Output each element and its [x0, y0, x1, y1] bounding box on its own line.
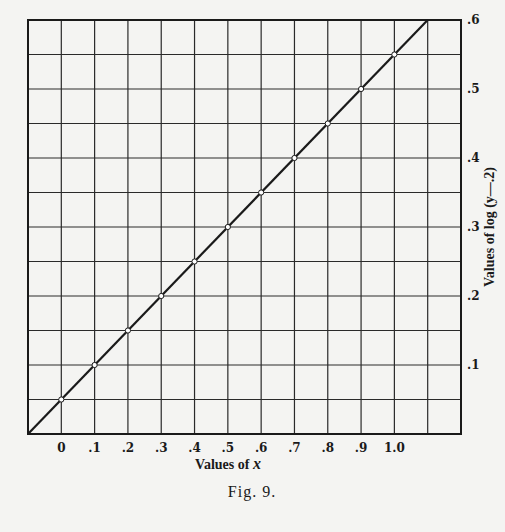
y-tick-label: .6 [467, 13, 480, 27]
y-tick-label: .4 [467, 151, 480, 165]
data-point [59, 397, 64, 402]
data-point [358, 86, 363, 91]
y-axis-label: Values of log (y—.2) [482, 167, 498, 287]
data-point [325, 121, 330, 126]
grid [28, 20, 461, 434]
y-tick-label: .2 [467, 289, 480, 303]
y-tick-label: .5 [467, 82, 480, 96]
y-tick-labels: .1.2.3.4.5.6 [467, 13, 480, 372]
x-axis-label-var: x [252, 455, 261, 472]
data-point [192, 259, 197, 264]
y-tick-label: .3 [467, 220, 480, 234]
x-tick-label: .4 [188, 441, 201, 455]
x-tick-label: .6 [255, 441, 268, 455]
data-point [92, 362, 97, 367]
x-tick-label: .5 [222, 441, 235, 455]
x-tick-label: .1 [88, 441, 101, 455]
data-point [259, 190, 264, 195]
chart: 0.1.2.3.4.5.6.7.8.91.0 .1.2.3.4.5.6 Valu… [0, 0, 505, 532]
x-tick-label: .9 [355, 441, 368, 455]
data-point [392, 52, 397, 57]
data-point [125, 328, 130, 333]
data-point [159, 293, 164, 298]
x-axis-label: Values of x [195, 455, 261, 472]
data-point [292, 155, 297, 160]
x-tick-label: .2 [122, 441, 135, 455]
x-axis-label-prefix: Values of [195, 457, 250, 472]
x-tick-label: .7 [288, 441, 301, 455]
x-tick-label: .8 [322, 441, 335, 455]
figure-caption: Fig. 9. [228, 483, 276, 501]
x-tick-labels: 0.1.2.3.4.5.6.7.8.91.0 [57, 441, 405, 455]
data-point [225, 224, 230, 229]
y-tick-label: .1 [467, 358, 480, 372]
x-tick-label: .3 [155, 441, 168, 455]
x-tick-label: 0 [57, 441, 65, 455]
x-tick-label: 1.0 [384, 441, 405, 455]
